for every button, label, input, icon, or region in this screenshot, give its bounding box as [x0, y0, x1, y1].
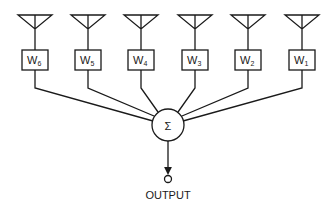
array-element-3: W3 — [178, 15, 212, 112]
sigma-symbol: Σ — [165, 120, 172, 132]
summing-junction: Σ — [152, 109, 184, 141]
antenna-icon — [285, 15, 319, 50]
output-terminal — [165, 176, 172, 183]
array-element-4: W4 — [124, 15, 158, 112]
output-label: OUTPUT — [145, 189, 191, 201]
antenna-icon — [178, 15, 212, 50]
antenna-icon — [71, 15, 105, 50]
antenna-icon — [231, 15, 265, 50]
antenna-icon — [124, 15, 158, 50]
antenna-icon — [18, 15, 52, 50]
beamformer-diagram: W6 W5 W4 W3 W2 W1 Σ — [0, 0, 335, 209]
